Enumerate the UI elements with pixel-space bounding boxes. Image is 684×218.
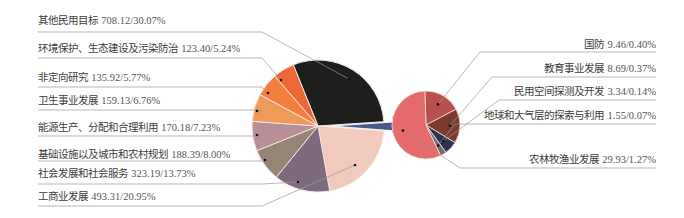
label-value: 323.19/13.73%	[131, 168, 195, 179]
label-defense: 国防 9.46/0.40%	[584, 38, 656, 51]
label-space-exploration: 民用空间探测及开发 3.34/0.14%	[514, 85, 656, 98]
label-value: 8.69/0.37%	[608, 63, 656, 74]
label-name: 环境保护、生态建设及污染防治	[38, 42, 178, 54]
label-name: 基础设施以及城市和农村规划	[38, 148, 168, 160]
label-name: 地球和大气层的探索与利用	[484, 109, 604, 121]
label-name: 教育事业发展	[544, 62, 604, 74]
label-name: 民用空间探测及开发	[514, 85, 604, 97]
label-name: 农林牧渔业发展	[529, 153, 599, 165]
label-name: 能源生产、分配和合理利用	[38, 121, 158, 133]
label-value: 123.40/5.24%	[181, 43, 240, 54]
label-environment: 环境保护、生态建设及污染防治 123.40/5.24%	[38, 42, 240, 55]
label-social-development: 社会发展和社会服务 323.19/13.73%	[38, 167, 196, 180]
label-value: 3.34/0.14%	[608, 86, 656, 97]
label-education: 教育事业发展 8.69/0.37%	[544, 62, 656, 75]
label-name: 其他民用目标	[38, 14, 98, 26]
label-industry-commerce: 工商业发展 493.31/20.95%	[38, 190, 156, 203]
label-value: 159.13/6.76%	[101, 95, 160, 106]
label-name: 社会发展和社会服务	[38, 167, 128, 179]
label-value: 188.39/8.00%	[171, 149, 230, 160]
label-value: 29.93/1.27%	[602, 154, 656, 165]
label-value: 9.46/0.40%	[608, 39, 656, 50]
label-value: 1.55/0.07%	[608, 110, 656, 121]
main-pie	[252, 60, 398, 192]
label-name: 国防	[584, 38, 604, 50]
label-health: 卫生事业发展 159.13/6.76%	[38, 94, 160, 107]
label-name: 卫生事业发展	[38, 94, 98, 106]
label-non-oriented-research: 非定向研究 135.92/5.77%	[38, 71, 150, 84]
label-other-civil: 其他民用目标 708.12/30.07%	[38, 14, 166, 27]
label-earth-atmosphere: 地球和大气层的探索与利用 1.55/0.07%	[484, 109, 656, 122]
label-infrastructure: 基础设施以及城市和农村规划 188.39/8.00%	[38, 148, 230, 161]
label-energy: 能源生产、分配和合理利用 170.18/7.23%	[38, 121, 220, 134]
label-name: 工商业发展	[38, 190, 88, 202]
label-name: 非定向研究	[38, 71, 88, 83]
label-value: 170.18/7.23%	[161, 122, 220, 133]
label-value: 135.92/5.77%	[91, 72, 150, 83]
label-value: 493.31/20.95%	[91, 191, 155, 202]
label-agriculture: 农林牧渔业发展 29.93/1.27%	[529, 153, 656, 166]
label-value: 708.12/30.07%	[101, 15, 165, 26]
